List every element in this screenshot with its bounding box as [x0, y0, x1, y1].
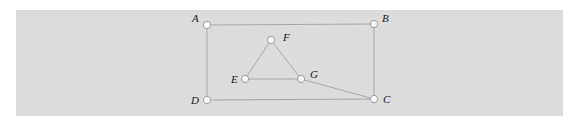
label-F: F [282, 31, 290, 43]
label-C: C [383, 93, 391, 105]
label-B: B [382, 12, 389, 24]
node-A [203, 21, 210, 28]
edge-A-B [207, 24, 374, 25]
edge-G-C [301, 79, 374, 99]
node-B [370, 20, 377, 27]
edge-C-D [207, 99, 374, 100]
edges-group [207, 24, 374, 100]
node-C [370, 95, 377, 102]
label-D: D [190, 94, 199, 106]
nodes-group [203, 20, 377, 103]
node-D [203, 96, 210, 103]
label-A: A [191, 12, 199, 24]
labels-group: A B C D E F G [190, 12, 391, 106]
node-G [297, 75, 304, 82]
node-F [267, 36, 274, 43]
edge-F-G [271, 40, 301, 79]
graph-diagram: A B C D E F G [0, 0, 573, 120]
edge-E-F [245, 40, 271, 79]
label-E: E [230, 73, 238, 85]
node-E [241, 75, 248, 82]
label-G: G [310, 68, 318, 80]
